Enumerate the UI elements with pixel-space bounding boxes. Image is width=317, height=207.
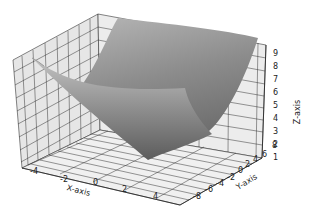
y-axis-label: Y-axis: [234, 172, 259, 192]
surface-plot: 1 2 3 4 5 6 7 8 9 Z-axis -4 -2 0 2 4 X-a…: [0, 0, 317, 207]
svg-text:-6: -6: [205, 185, 213, 194]
z-axis-label: Z-axis: [293, 100, 302, 124]
svg-text:-4: -4: [30, 167, 38, 176]
svg-text:4: 4: [253, 155, 258, 164]
svg-text:2: 2: [245, 160, 250, 169]
svg-text:-4: -4: [216, 179, 224, 188]
svg-text:-2: -2: [60, 175, 68, 184]
svg-text:-2: -2: [227, 173, 235, 182]
svg-text:9: 9: [273, 49, 278, 58]
svg-text:6: 6: [262, 150, 267, 159]
svg-text:5: 5: [273, 101, 278, 110]
svg-text:7: 7: [273, 75, 278, 84]
svg-text:0: 0: [93, 178, 98, 187]
svg-text:0: 0: [238, 166, 243, 175]
svg-text:-8: -8: [193, 192, 201, 201]
x-axis-label: X-axis: [66, 183, 91, 198]
svg-text:8: 8: [272, 141, 277, 150]
svg-text:8: 8: [273, 62, 278, 71]
svg-text:1: 1: [273, 153, 278, 162]
svg-text:2: 2: [122, 185, 127, 194]
svg-text:4: 4: [153, 192, 158, 201]
svg-text:3: 3: [273, 127, 278, 136]
svg-text:4: 4: [273, 114, 278, 123]
svg-text:6: 6: [273, 88, 278, 97]
